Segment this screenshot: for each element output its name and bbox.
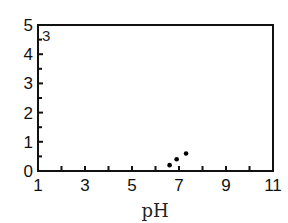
x-tick-label: 5 [127, 176, 136, 195]
panel-label: 3 [42, 27, 50, 44]
data-point [184, 151, 189, 156]
x-tick-label: 7 [174, 176, 183, 195]
y-tick-label: 0 [24, 162, 33, 181]
y-axis: 012345 [24, 16, 43, 181]
y-tick-label: 4 [24, 45, 33, 64]
y-tick-label: 1 [24, 133, 33, 152]
data-point [167, 163, 172, 168]
x-axis-title: pH [141, 200, 168, 221]
x-tick-label: 3 [80, 176, 89, 195]
x-tick-label: 1 [33, 176, 42, 195]
x-tick-label: 9 [221, 176, 230, 195]
y-tick-label: 2 [24, 104, 33, 123]
data-point [174, 157, 179, 162]
plot-border [38, 25, 273, 171]
y-tick-label: 5 [24, 16, 33, 35]
y-tick-label: 3 [24, 74, 33, 93]
scatter-chart: 012345 1357911 3 pH [0, 0, 288, 223]
x-tick-label: 11 [264, 176, 282, 195]
data-points [167, 151, 188, 167]
plot-frame [38, 25, 273, 171]
